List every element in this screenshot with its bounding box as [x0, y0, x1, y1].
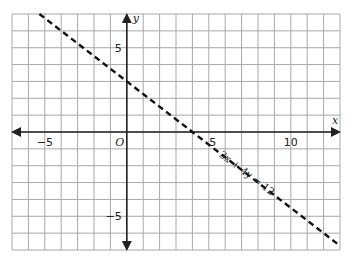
coordinate-plane: −55105−5Oyx3x + 4y = 12	[0, 0, 353, 264]
y-axis-label: y	[132, 12, 140, 25]
series-line	[39, 14, 340, 246]
equation-label: 3x + 4y = 12	[217, 149, 277, 198]
label-layer: −55105−5Oyx3x + 4y = 12	[37, 12, 339, 223]
origin-label: O	[115, 136, 124, 149]
x-tick-label: −5	[37, 136, 53, 149]
series-layer	[39, 14, 340, 246]
x-tick-label: 10	[284, 136, 298, 149]
y-tick-label: −5	[106, 210, 122, 223]
x-axis-label: x	[332, 114, 339, 127]
y-tick-label: 5	[115, 42, 122, 55]
x-tick-label: 5	[209, 136, 216, 149]
